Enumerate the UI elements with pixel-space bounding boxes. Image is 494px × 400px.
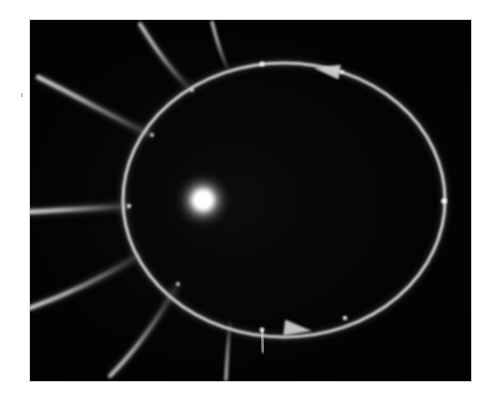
photographic-plate (30, 20, 471, 381)
orbit-diagram-svg (30, 20, 471, 381)
node-left (127, 204, 131, 208)
node-lower-left (176, 282, 180, 286)
node-right (441, 198, 447, 204)
node-lower-right (343, 316, 348, 321)
node-top-left (260, 62, 265, 67)
central-light-source (171, 168, 235, 232)
plate-vignette (30, 20, 471, 381)
plate-border-bottom (29, 381, 472, 382)
ray-8-bottom-tick (262, 330, 263, 352)
node-top-right (340, 70, 344, 74)
node-upper-left (150, 133, 154, 137)
star-core (195, 192, 212, 209)
plate-border-right (471, 19, 472, 382)
node-upper-left-2 (190, 88, 194, 92)
margin-speck (21, 93, 23, 97)
figure-root (0, 0, 494, 400)
